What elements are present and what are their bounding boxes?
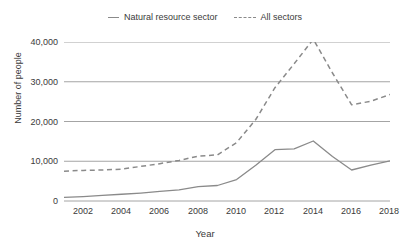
dashed-line-swatch-icon xyxy=(234,17,256,18)
y-tick-10000: 10,000 xyxy=(12,156,58,166)
legend-item-natural-resource-sector: Natural resource sector xyxy=(108,13,218,22)
x-tick-2010: 2010 xyxy=(226,206,246,216)
plot-area xyxy=(64,42,390,201)
x-tick-2014: 2014 xyxy=(303,206,323,216)
gridlines xyxy=(64,42,390,201)
y-tick-40000: 40,000 xyxy=(12,37,58,47)
y-tick-30000: 30,000 xyxy=(12,77,58,87)
x-tick-2016: 2016 xyxy=(341,206,361,216)
solid-line-swatch-icon xyxy=(108,17,119,18)
y-axis-ticks: 0 10,000 20,000 30,000 40,000 xyxy=(12,0,58,250)
x-tick-2002: 2002 xyxy=(73,206,93,216)
legend-item-all-sectors: All sectors xyxy=(234,13,303,22)
y-tick-20000: 20,000 xyxy=(12,117,58,127)
y-tick-0: 0 xyxy=(12,196,58,206)
series-line-all-sectors xyxy=(64,42,390,171)
chart-legend: Natural resource sector All sectors xyxy=(0,9,410,25)
x-tick-2004: 2004 xyxy=(111,206,131,216)
x-axis-label: Year xyxy=(0,228,410,239)
plot-svg xyxy=(64,42,390,205)
x-tick-2006: 2006 xyxy=(149,206,169,216)
x-tick-2018: 2018 xyxy=(379,206,399,216)
x-tick-2012: 2012 xyxy=(264,206,284,216)
legend-label: Natural resource sector xyxy=(124,13,218,22)
line-chart: Natural resource sector All sectors Numb… xyxy=(0,0,410,250)
x-tick-2008: 2008 xyxy=(188,206,208,216)
legend-label: All sectors xyxy=(261,13,303,22)
